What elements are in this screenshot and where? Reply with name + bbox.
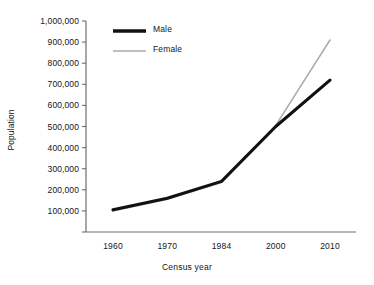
y-axis-tick-label: 300,000: [48, 164, 79, 173]
population-line-chart: 100,000200,000300,000400,000500,000600,0…: [0, 0, 374, 285]
x-axis-tick-label: 1960: [103, 242, 123, 251]
y-axis-tick-label: 700,000: [48, 80, 79, 89]
legend-item-female: Female: [113, 40, 182, 58]
legend-label-female: Female: [153, 45, 182, 54]
x-axis-tick-label: 1970: [157, 242, 177, 251]
y-axis-tick-label: 600,000: [48, 101, 79, 110]
y-axis-tick-label: 900,000: [48, 38, 79, 47]
x-axis-title: Census year: [0, 262, 374, 272]
x-axis-tick-label: 2010: [320, 242, 340, 251]
y-axis-tick-label: 500,000: [48, 122, 79, 131]
y-axis-tick-label: 400,000: [48, 143, 79, 152]
legend-item-male: Male: [113, 20, 172, 38]
data-series-group: [113, 40, 330, 211]
y-axis-tick-label: 1,000,000: [40, 17, 79, 26]
series-line-female: [113, 40, 330, 211]
legend-swatch-male: [113, 20, 146, 38]
legend-swatch-female: [113, 40, 146, 58]
y-axis-tick-label: 100,000: [48, 207, 79, 216]
legend-label-male: Male: [153, 25, 172, 34]
x-axis-tick-label: 1984: [212, 242, 232, 251]
x-axis-tick-label: 2000: [266, 242, 286, 251]
series-line-male: [113, 80, 330, 210]
y-axis-tick-label: 200,000: [48, 186, 79, 195]
y-axis-tick-label: 800,000: [48, 59, 79, 68]
y-axis-title: Population: [6, 109, 16, 150]
